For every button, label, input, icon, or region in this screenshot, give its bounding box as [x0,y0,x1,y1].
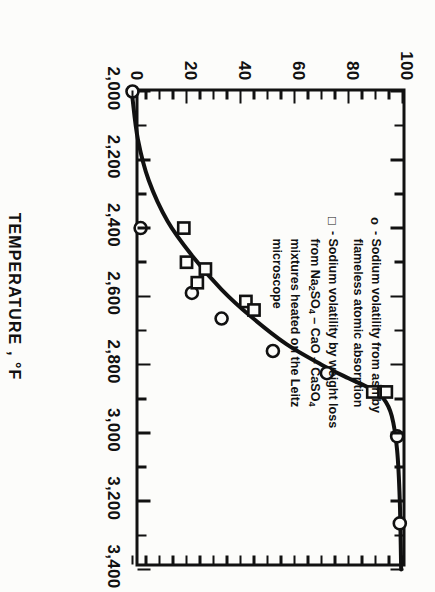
legend-row: o - Sodium volatility from ash by [366,214,384,428]
y-axis-tick [212,555,215,564]
legend-text-line: mixtures heated on the Leitz [285,214,303,428]
x-axis-tick [390,568,403,571]
y-axis-tick-label: 20 [179,40,199,80]
y-axis-tick [185,90,188,103]
legend-text-line: microscope [267,214,285,428]
y-axis-tick [158,555,161,564]
y-axis-tick [333,555,336,564]
y-axis-tick [144,555,147,564]
x-axis-tick [390,431,403,434]
y-axis-tick-label: 0 [125,40,145,80]
x-axis-tick [137,226,150,229]
x-axis-tick [390,295,403,298]
y-axis-tick [293,555,296,564]
x-axis-tick [394,192,403,195]
y-axis-tick [225,90,228,99]
y-axis-tick [239,90,242,103]
rotated-figure-wrapper: 2,0002,2002,4002,6002,8003,0003,2003,400… [0,0,435,592]
y-axis-tick-label: 80 [341,40,361,80]
y-axis-tick-label: 100 [395,40,415,80]
x-axis-tick [137,295,150,298]
y-axis-tick [401,90,404,103]
y-axis-tick [212,90,215,99]
y-axis-tick [144,90,147,99]
legend-dash: - [323,227,341,238]
x-axis-tick [390,499,403,502]
x-axis-tick [390,226,403,229]
legend-text-line: flameless atomic absorption [348,214,366,428]
x-axis-tick [137,397,146,400]
data-point-circle [393,517,405,529]
data-point-circle [215,312,227,324]
y-axis-tick [293,90,296,103]
data-point-square [199,263,210,274]
y-axis-tick-label: 60 [287,40,307,80]
x-axis-tick [137,90,150,93]
legend: o - Sodium volatility from ash by flamel… [267,214,383,428]
legend-text-line-formula: from Na2SO4 – CaO – CaSO4 [302,214,323,428]
legend-text-line: Sodium volatility from ash by [366,238,384,412]
x-axis-tick [137,499,150,502]
x-axis-tick [137,568,150,571]
y-axis-tick [347,555,350,564]
y-axis-tick [252,90,255,99]
y-axis-tick [171,90,174,99]
y-axis-tick [360,555,363,564]
y-axis-tick [279,90,282,99]
y-axis-tick [320,90,323,99]
x-axis-tick-label: 2,400 [102,203,122,247]
x-axis-tick-label: 2,600 [102,271,122,315]
legend-row: □ - Sodium volatility by weight loss [323,214,341,428]
y-axis-tick [347,90,350,103]
x-axis-tick [137,465,146,468]
legend-dash: - [366,227,384,238]
y-axis-tick [131,555,134,564]
data-point-square [191,277,202,288]
x-axis-tick [394,534,403,537]
x-axis-title: TEMPERATURE , °F [4,0,22,592]
y-axis-tick [387,555,390,564]
y-axis-tick [374,555,377,564]
x-axis-tick-label: 2,800 [102,339,122,383]
x-axis-tick [137,158,150,161]
x-axis-tick [137,192,146,195]
x-axis-tick [394,260,403,263]
y-axis-tick [387,90,390,99]
x-axis-tick-label: 3,000 [102,407,122,451]
x-axis-tick [390,363,403,366]
y-axis-tick [266,90,269,99]
y-axis-tick-label: 40 [233,40,253,80]
y-axis-tick [279,555,282,564]
data-point-square [180,256,191,267]
y-axis-tick [360,90,363,99]
x-axis-tick [137,124,146,127]
x-axis-tick [137,329,146,332]
x-axis-tick [390,158,403,161]
x-axis-tick [137,260,146,263]
y-axis-tick [171,555,174,564]
y-axis-tick [320,555,323,564]
x-axis-tick [394,465,403,468]
y-axis-tick [333,90,336,99]
legend-entry-circle: o - Sodium volatility from ash by flamel… [348,214,383,428]
x-axis-tick [137,363,150,366]
x-axis-tick [137,431,150,434]
y-axis-tick [266,555,269,564]
legend-text-line: Sodium volatility by weight loss [323,238,341,428]
square-marker-icon: □ [323,214,341,227]
x-axis-tick [137,534,146,537]
x-axis-tick-label: 3,400 [102,544,122,588]
y-axis-tick [185,555,188,564]
x-axis-tick-label: 2,200 [102,134,122,178]
y-axis-tick [239,555,242,564]
y-axis-tick [131,90,134,103]
chart-page: 2,0002,2002,4002,6002,8003,0003,2003,400… [0,0,435,592]
legend-entry-square: □ - Sodium volatility by weight loss fro… [267,214,340,428]
y-axis-tick [306,90,309,99]
y-axis-tick [374,90,377,99]
y-axis-tick [401,555,404,564]
x-axis-tick [394,397,403,400]
y-axis-tick [306,555,309,564]
x-axis-tick [394,124,403,127]
circle-marker-icon: o [366,214,384,227]
